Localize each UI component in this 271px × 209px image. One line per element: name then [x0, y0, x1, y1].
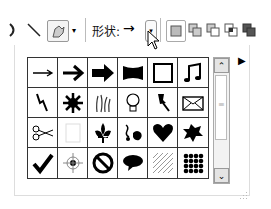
exclude-overlap-button[interactable] — [241, 20, 257, 40]
scroll-thumb[interactable]: ≡ — [215, 75, 227, 140]
shape-frame[interactable] — [148, 58, 178, 88]
shape-arrow-bold[interactable] — [58, 58, 88, 88]
exclude-overlap-icon — [242, 23, 256, 37]
scroll-down-button[interactable]: ⌄ — [214, 168, 229, 183]
shape-grid — [27, 57, 209, 179]
grip-icon: ≡ — [218, 100, 225, 109]
thin-arrow-icon — [31, 61, 55, 85]
shape-ornament[interactable] — [118, 118, 148, 148]
shape-grid-scrollbar[interactable]: ⌃ ≡ ⌄ — [213, 57, 230, 184]
subtract-from-area-button[interactable] — [205, 20, 221, 40]
dots-pattern-icon — [181, 151, 205, 175]
fleur-de-lis-icon — [91, 121, 115, 145]
add-to-area-button[interactable] — [187, 20, 203, 40]
shape-hatch-pattern[interactable] — [148, 148, 178, 178]
grass-icon — [91, 91, 115, 115]
mouse-cursor-icon — [147, 30, 161, 54]
shape-speech-bubble[interactable] — [118, 148, 148, 178]
shape-splat[interactable] — [178, 118, 208, 148]
checkmark-icon — [31, 151, 55, 175]
separator — [85, 18, 86, 42]
arc-tool-icon[interactable] — [6, 20, 20, 40]
intersect-area-icon — [224, 23, 238, 37]
shape-banner[interactable] — [118, 58, 148, 88]
line-tool-icon[interactable] — [26, 20, 42, 40]
shape-arrow-block[interactable] — [88, 58, 118, 88]
ornament-icon — [121, 121, 145, 145]
shape-blank[interactable] — [58, 118, 88, 148]
banner-icon — [121, 61, 145, 85]
shape-target[interactable] — [58, 148, 88, 178]
new-layer-button[interactable] — [166, 20, 186, 42]
target-icon — [61, 151, 85, 175]
no-sign-icon — [91, 151, 115, 175]
lightning-icon — [31, 91, 55, 115]
lightbulb-icon — [121, 91, 145, 115]
shape-no-sign[interactable] — [88, 148, 118, 178]
chevron-up-icon: ⌃ — [218, 61, 226, 71]
shape-arrow-thin[interactable] — [28, 58, 58, 88]
resize-grip-icon[interactable] — [240, 185, 248, 193]
custom-shape-icon — [50, 23, 66, 39]
options-toolbar: ▾ 形状: → ▾ — [0, 16, 271, 44]
shape-grass[interactable] — [88, 88, 118, 118]
subtract-area-icon — [206, 23, 220, 37]
panel-menu-icon[interactable]: ▶ — [238, 55, 246, 66]
shape-lightbulb[interactable] — [118, 88, 148, 118]
current-shape-arrow-icon: → — [123, 20, 135, 36]
speech-bubble-icon — [121, 151, 145, 175]
chevron-down-icon: ⌄ — [218, 171, 226, 181]
scissors-icon — [31, 121, 55, 145]
new-shape-layer-icon — [170, 25, 182, 37]
pushpin-icon — [151, 91, 175, 115]
shape-pushpin[interactable] — [148, 88, 178, 118]
shape-music-note[interactable] — [178, 58, 208, 88]
splat-icon — [181, 121, 205, 145]
custom-shape-tool-button[interactable] — [47, 20, 69, 42]
heart-icon — [151, 121, 175, 145]
add-area-icon — [188, 23, 202, 37]
shape-label: 形状: — [92, 22, 120, 39]
shape-starburst[interactable] — [58, 88, 88, 118]
shape-checkmark[interactable] — [28, 148, 58, 178]
scroll-up-button[interactable]: ⌃ — [214, 58, 229, 73]
intersect-area-button[interactable] — [223, 20, 239, 40]
custom-shape-dropdown-icon[interactable]: ▾ — [70, 20, 78, 40]
bold-arrow-icon — [61, 61, 85, 85]
shape-fleur-de-lis[interactable] — [88, 118, 118, 148]
music-note-icon — [181, 61, 205, 85]
shape-lightning[interactable] — [28, 88, 58, 118]
starburst-icon — [61, 91, 85, 115]
shape-scissors[interactable] — [28, 118, 58, 148]
shape-heart[interactable] — [148, 118, 178, 148]
frame-icon — [151, 61, 175, 85]
shape-dots-pattern[interactable] — [178, 148, 208, 178]
blank-shape-icon — [61, 121, 85, 145]
hatch-pattern-icon — [151, 151, 175, 175]
shape-envelope[interactable] — [178, 88, 208, 118]
envelope-icon — [181, 91, 205, 115]
block-arrow-icon — [91, 61, 115, 85]
